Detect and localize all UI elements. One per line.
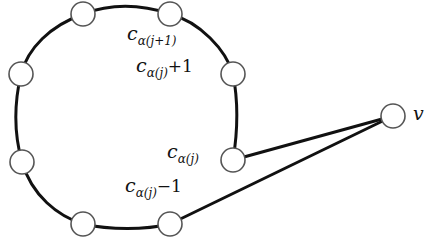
node-top-left (71, 2, 95, 26)
node-c-alpha-j-plus-1 (221, 62, 245, 86)
label-c-alpha-j: cα(j) (167, 142, 199, 161)
label-tail: +1 (168, 56, 193, 76)
label-sub-rest: (j) (155, 66, 168, 80)
label-sub-greek: α (178, 152, 186, 166)
label-base: c (167, 140, 178, 162)
label-base: c (127, 22, 138, 44)
node-c-alpha-j-minus-1 (158, 212, 182, 236)
label-tail: −1 (157, 176, 182, 196)
cycle-graph-diagram: cα(j+1) cα(j)+1 cα(j) cα(j)−1 v (0, 0, 433, 241)
label-c-alpha-j-plus-1: cα(j)+1 (136, 56, 193, 75)
node-left-upper (9, 62, 33, 86)
label-sub-greek: α (138, 34, 146, 48)
node-bottom-left (71, 212, 95, 236)
label-c-alpha-j-minus-1: cα(j)−1 (125, 176, 182, 195)
label-sub-rest: (j) (144, 186, 157, 200)
node-c-alpha-j (221, 148, 245, 172)
label-sub-rest: (j) (186, 152, 199, 166)
label-sub-greek: α (147, 66, 155, 80)
edge-c-alpha-j-minus-1-to-v (170, 116, 393, 224)
label-sub-greek: α (136, 186, 144, 200)
cycle-edge-n3-n4 (233, 74, 237, 160)
graph-drawing (0, 0, 433, 241)
label-c-alpha-j-plus1: cα(j+1) (127, 24, 177, 43)
node-c-alpha-j-plus1 (158, 2, 182, 26)
label-base: c (136, 54, 147, 76)
label-base: c (125, 174, 136, 196)
label-sub-rest: (j+1) (146, 34, 177, 48)
node-v (381, 104, 405, 128)
label-v: v (413, 104, 424, 123)
node-left-lower (10, 150, 34, 174)
